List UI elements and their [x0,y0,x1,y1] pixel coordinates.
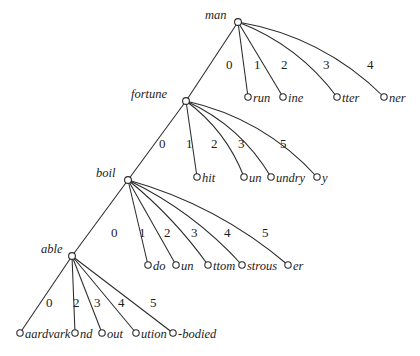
leaf-node-strous[interactable] [239,262,245,268]
tree-edge [238,22,283,97]
edge-label: 2 [281,58,288,71]
leaf-label-hit: hit [202,172,215,185]
node-label-able: able [41,243,63,256]
edge-label: 4 [224,226,231,239]
tree-edge [128,101,186,180]
tree-edge [72,256,136,333]
leaf-node-nd[interactable] [72,330,78,336]
leaf-node-tter[interactable] [334,94,340,100]
edge-label: 1 [254,58,261,71]
edge-label: 2 [211,137,218,150]
leaf-node-do[interactable] [145,262,151,268]
tree-edge [186,101,271,177]
leaf-node-hit[interactable] [194,174,200,180]
leaf-node-ner[interactable] [381,94,387,100]
tree-node-able[interactable] [69,253,76,260]
edge-label: 1 [186,137,193,150]
leaf-node--bodied[interactable] [170,330,176,336]
edge-label: 0 [46,296,53,309]
leaf-label-run: run [253,92,270,105]
leaf-node-aardvark[interactable] [17,330,23,336]
edge-label: 5 [150,296,157,309]
leaf-label-nd: nd [80,328,93,341]
tree-edge [238,22,248,97]
trie-diagram: 012340123501234502345manfortuneboilabler… [0,0,420,356]
leaf-node-un-b[interactable] [173,262,179,268]
leaf-label-ine: ine [288,92,303,105]
leaf-node-ine[interactable] [280,94,286,100]
leaf-node-ution[interactable] [133,330,139,336]
edge-label: 4 [367,58,374,71]
tree-edge [72,180,128,256]
tree-edge [128,180,148,265]
edge-label: 5 [280,137,287,150]
leaf-node-y[interactable] [314,174,320,180]
node-label-man: man [205,9,227,22]
leaf-label-un-f: un [249,172,262,185]
edge-label: 2 [73,296,80,309]
leaf-label-ution: ution [141,328,167,341]
tree-node-man[interactable] [235,19,242,26]
leaf-label-un-b: un [181,260,194,273]
edge-label: 1 [139,226,146,239]
tree-edge [186,101,317,177]
leaf-node-out[interactable] [99,330,105,336]
leaf-label-do: do [153,260,166,273]
edge-label: 3 [323,58,330,71]
leaf-node-un-f[interactable] [241,174,247,180]
edge-label: 2 [164,226,171,239]
edge-label: 0 [111,226,118,239]
leaf-label-tter: tter [342,92,359,105]
node-label-boil: boil [96,167,115,180]
leaf-label-y: y [322,172,328,185]
leaf-label-er: er [293,260,303,273]
leaf-label-out: out [107,328,123,341]
leaf-label-ner: ner [389,92,406,105]
edge-label: 3 [191,226,198,239]
edge-label: 4 [118,296,125,309]
leaf-node-undry[interactable] [268,174,274,180]
edge-label: 0 [159,137,166,150]
leaf-label-undry: undry [276,172,305,185]
node-label-fortune: fortune [131,88,167,101]
leaf-node-ttom[interactable] [205,262,211,268]
tree-node-fortune[interactable] [183,98,190,105]
edge-label: 3 [94,296,101,309]
edge-label: 3 [238,137,245,150]
leaf-label-strous: strous [247,260,277,273]
tree-node-boil[interactable] [125,177,132,184]
leaf-label-ttom: ttom [213,260,235,273]
edge-label: 0 [226,58,233,71]
leaf-node-run[interactable] [245,94,251,100]
edge-label: 5 [262,226,269,239]
leaf-label--bodied: -bodied [178,328,216,341]
leaf-label-aardvark: aardvark [25,328,70,341]
leaf-node-er[interactable] [285,262,291,268]
